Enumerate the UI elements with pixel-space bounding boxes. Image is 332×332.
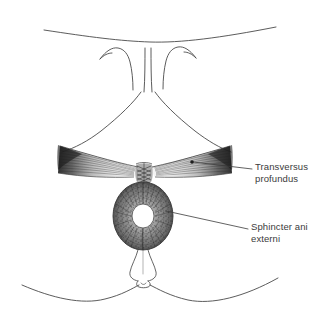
sphincter-ani-externi-label: Sphincter ani externi: [251, 221, 308, 244]
sphincter-ani-externi-label-line1: Sphincter ani: [251, 221, 308, 233]
transversus-profundus-label: Transversus profundus: [255, 161, 308, 184]
leader-dot-transversus: [190, 160, 194, 164]
anatomical-figure: Transversus profundus Sphincter ani exte…: [0, 0, 332, 332]
perineal-body: [135, 163, 152, 185]
anal-canal-lumen: [132, 204, 154, 228]
transversus-profundus-label-line1: Transversus: [255, 161, 308, 173]
sphincter-ani-externi-label-line2: externi: [251, 233, 308, 245]
transversus-profundus-label-line2: profundus: [255, 173, 308, 185]
